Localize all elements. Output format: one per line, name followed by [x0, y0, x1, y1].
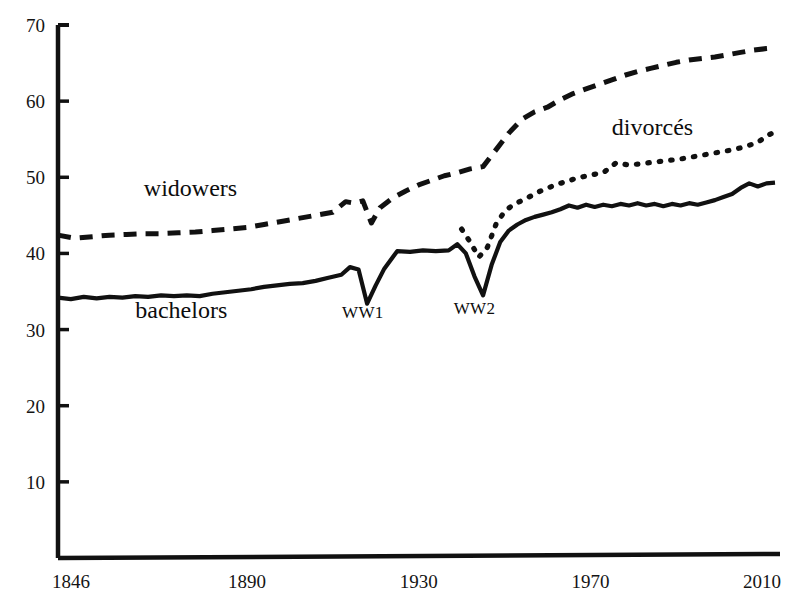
y-tick-label: 60	[26, 91, 45, 112]
y-tick-label: 40	[26, 243, 45, 264]
series-label-bachelors: bachelors	[135, 297, 227, 323]
chart-annotations: WW1WW2	[342, 299, 495, 322]
x-tick-label: 2010	[743, 571, 781, 592]
axis-lines	[58, 25, 780, 558]
annotation-ww1: WW1	[342, 303, 384, 322]
y-axis-ticks: 10203040506070	[26, 15, 69, 493]
series-label-divorces: divorcés	[612, 114, 693, 140]
x-tick-label: 1846	[52, 571, 90, 592]
series-label-widowers: widowers	[144, 175, 237, 201]
y-tick-label: 70	[26, 15, 45, 36]
x-axis-ticks: 18461890193019702010	[52, 571, 781, 592]
y-tick-label: 20	[26, 396, 45, 417]
chart-container: 10203040506070 18461890193019702010 wido…	[0, 0, 787, 611]
series-line-widowers	[58, 48, 775, 238]
x-tick-label: 1890	[228, 571, 266, 592]
line-chart: 10203040506070 18461890193019702010 wido…	[0, 0, 787, 611]
y-tick-label: 50	[26, 167, 45, 188]
y-tick-label: 30	[26, 320, 45, 341]
y-tick-label: 10	[26, 472, 45, 493]
x-tick-label: 1970	[571, 571, 609, 592]
annotation-ww2: WW2	[454, 299, 496, 318]
x-tick-label: 1930	[400, 571, 438, 592]
